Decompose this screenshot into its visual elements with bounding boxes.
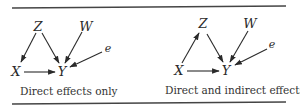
panel-direct-and-indirect-effects: Z W e X Y Direct and indirect effects bbox=[165, 16, 300, 96]
top-rule bbox=[12, 6, 286, 8]
edge-w-to-y-arrow bbox=[230, 31, 248, 62]
node-y: Y bbox=[58, 64, 68, 79]
node-w: W bbox=[79, 19, 94, 34]
caption-left: Direct effects only bbox=[20, 85, 118, 97]
edge-x-to-z-arrow bbox=[182, 33, 199, 63]
edge-w-to-y-arrow bbox=[65, 32, 82, 63]
panel-direct-effects-only: Z W e X Y Direct effects only bbox=[10, 19, 117, 97]
node-e: e bbox=[269, 38, 276, 51]
edge-e-to-y-arrow bbox=[235, 49, 267, 65]
node-x: X bbox=[10, 64, 21, 79]
causal-diagrams: Z W e X Y Direct effects only Z W e X Y … bbox=[0, 0, 300, 111]
node-w: W bbox=[243, 16, 258, 31]
node-x: X bbox=[173, 63, 184, 78]
edge-z-to-y-arrow bbox=[207, 34, 223, 62]
node-e: e bbox=[105, 42, 112, 55]
node-z: Z bbox=[197, 16, 208, 31]
node-z: Z bbox=[32, 19, 43, 34]
caption-right: Direct and indirect effects bbox=[165, 84, 300, 96]
edge-z-to-y-arrow bbox=[42, 33, 59, 63]
node-y: Y bbox=[222, 63, 232, 78]
edge-e-to-y-arrow bbox=[70, 52, 102, 67]
bottom-rule bbox=[12, 102, 286, 104]
edge-z-to-x-arrow bbox=[21, 33, 36, 62]
